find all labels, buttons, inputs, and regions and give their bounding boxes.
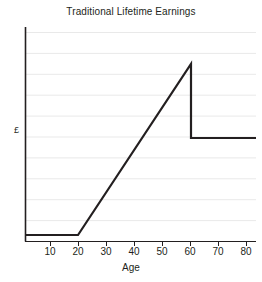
chart-plot-area: [0, 0, 262, 282]
x-tick-label: 30: [100, 247, 111, 257]
chart-container: Traditional Lifetime Earnings: [0, 0, 262, 282]
gridlines-horizontal: [25, 33, 256, 221]
y-axis-label: £: [14, 126, 19, 135]
x-tick-label: 80: [240, 247, 251, 257]
x-axis-label: Age: [0, 262, 262, 273]
x-tick-label: 50: [156, 247, 167, 257]
x-axis-tick-labels: 10 20 30 40 50 60 70 80: [0, 247, 262, 261]
x-tick-label: 20: [72, 247, 83, 257]
earnings-line-series: [26, 64, 256, 235]
x-tick-label: 70: [212, 247, 223, 257]
x-tick-label: 10: [44, 247, 55, 257]
x-tick-label: 40: [128, 247, 139, 257]
x-tick-label: 60: [184, 247, 195, 257]
